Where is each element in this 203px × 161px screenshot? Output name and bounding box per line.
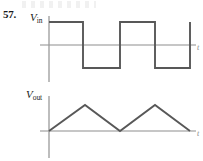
- figure-panel: 57. Vin Vout t t: [0, 0, 203, 161]
- vout-triangle-waveform: [49, 105, 190, 131]
- waveform-plots: [0, 0, 203, 161]
